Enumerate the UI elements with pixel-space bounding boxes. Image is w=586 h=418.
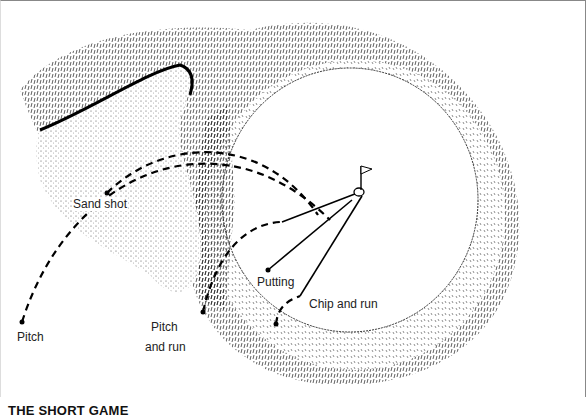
label-pitch-and-run-2: and run <box>145 340 186 354</box>
label-sand-shot: Sand shot <box>73 197 127 211</box>
green <box>222 68 478 332</box>
label-chip-and-run: Chip and run <box>309 297 378 311</box>
label-pitch-and-run-1: Pitch <box>151 320 178 334</box>
label-putting: Putting <box>257 275 294 289</box>
diagram-title: THE SHORT GAME <box>8 403 129 418</box>
label-pitch: Pitch <box>17 330 44 344</box>
